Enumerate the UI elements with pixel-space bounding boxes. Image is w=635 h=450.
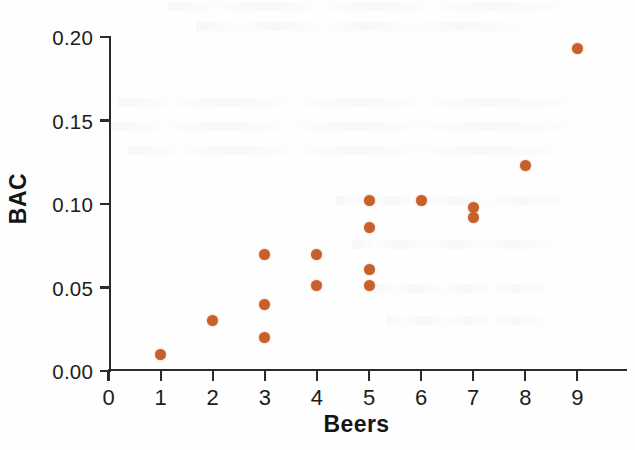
- y-tick-0.10: [100, 203, 109, 205]
- data-point: [155, 349, 166, 360]
- x-tick-label-8: 8: [505, 385, 545, 411]
- y-tick-0.15: [100, 119, 109, 121]
- data-point: [259, 299, 270, 310]
- x-tick-label-0: 0: [89, 385, 129, 411]
- x-tick-label-4: 4: [297, 385, 337, 411]
- y-tick-label-0.10: 0.10: [31, 193, 93, 217]
- x-tick-8: [524, 371, 526, 381]
- data-point: [572, 43, 583, 54]
- x-tick-6: [420, 371, 422, 381]
- data-point: [259, 249, 270, 260]
- x-tick-label-3: 3: [245, 385, 285, 411]
- x-tick-1: [160, 371, 162, 381]
- x-tick-5: [368, 371, 370, 381]
- y-tick-label-0.15: 0.15: [31, 110, 93, 134]
- data-point: [416, 195, 427, 206]
- y-axis-line: [109, 36, 111, 372]
- x-tick-9: [576, 371, 578, 381]
- y-tick-label-0.05: 0.05: [31, 277, 93, 301]
- data-point: [364, 280, 375, 291]
- y-tick-label-0.20: 0.20: [31, 26, 93, 50]
- y-tick-label-0.00: 0.00: [31, 360, 93, 384]
- data-point: [311, 249, 322, 260]
- data-point: [364, 222, 375, 233]
- x-tick-label-1: 1: [141, 385, 181, 411]
- data-point: [259, 332, 270, 343]
- x-tick-3: [264, 371, 266, 381]
- y-tick-0.05: [100, 286, 109, 288]
- x-tick-label-7: 7: [453, 385, 493, 411]
- data-point: [364, 264, 375, 275]
- x-tick-7: [472, 371, 474, 381]
- x-tick-label-2: 2: [193, 385, 233, 411]
- x-axis-title: Beers: [0, 411, 635, 438]
- data-point: [207, 315, 218, 326]
- data-point: [520, 160, 531, 171]
- x-tick-0: [107, 371, 109, 381]
- x-tick-2: [212, 371, 214, 381]
- data-point: [364, 195, 375, 206]
- data-point: [311, 280, 322, 291]
- x-tick-4: [316, 371, 318, 381]
- scatterplot-figure: 0.000.050.100.150.20 0123456789 BAC Beer…: [0, 0, 635, 450]
- x-tick-label-6: 6: [401, 385, 441, 411]
- plot-area: 0.000.050.100.150.20 0123456789 BAC Beer…: [0, 0, 635, 450]
- x-tick-label-9: 9: [557, 385, 597, 411]
- x-tick-label-5: 5: [349, 385, 389, 411]
- data-point: [468, 212, 479, 223]
- y-axis-title: BAC: [5, 149, 32, 249]
- y-tick-0.20: [100, 36, 109, 38]
